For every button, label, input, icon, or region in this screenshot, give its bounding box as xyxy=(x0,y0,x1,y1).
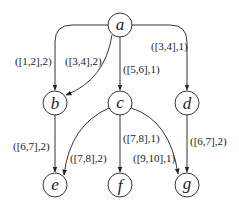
node-label-a: a xyxy=(116,15,125,34)
edge-label-c-f: ([7,8],1) xyxy=(123,132,160,145)
node-d: d xyxy=(175,91,199,115)
edge-label-a-b-outer: ([1,2],2) xyxy=(15,55,52,68)
node-label-d: d xyxy=(183,94,192,113)
node-label-c: c xyxy=(116,93,124,112)
node-b: b xyxy=(43,91,67,115)
edge-label-a-d: ([3,4],1) xyxy=(151,40,188,53)
edge-label-a-b-inner: ([3,4],2) xyxy=(65,55,102,68)
edge-label-d-g: ([6,7],2) xyxy=(190,135,227,148)
node-e: e xyxy=(43,173,67,197)
edge-label-c-g: ([9,10],1) xyxy=(133,152,175,165)
node-a: a xyxy=(108,13,132,37)
edge-label-c-e: ([7,8],2) xyxy=(70,152,107,165)
node-c: c xyxy=(108,91,132,115)
node-label-e: e xyxy=(51,175,59,194)
graph-diagram: ([1,2],2) ([3,4],2) ([5,6],1) ([3,4],1) … xyxy=(0,0,239,204)
node-label-g: g xyxy=(183,174,192,193)
node-g: g xyxy=(175,173,199,197)
node-f: f xyxy=(108,173,132,197)
node-label-b: b xyxy=(51,94,60,113)
edge-label-a-c: ([5,6],1) xyxy=(123,63,160,76)
edge-c-e xyxy=(64,108,109,175)
edge-a-d xyxy=(132,25,187,90)
edge-label-b-e: ([6,7],2) xyxy=(13,140,50,153)
